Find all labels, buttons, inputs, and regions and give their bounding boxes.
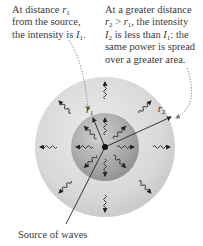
label-r2: r2 [158, 103, 165, 115]
source-point [102, 144, 108, 150]
wave-intensity-diagram: r1 r2 [0, 0, 203, 246]
leader-r2 [176, 68, 192, 118]
